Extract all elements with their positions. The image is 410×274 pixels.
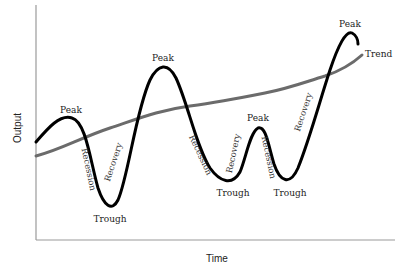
trend-label: Trend: [365, 49, 392, 59]
output-cycle-line: [36, 33, 358, 207]
x-axis-label: Time: [206, 253, 228, 264]
recession-label-3: Recession: [260, 135, 279, 180]
recovery-label-2: Recovery: [224, 133, 242, 174]
peak-label-1: Peak: [60, 105, 82, 115]
trough-label-1: Trough: [93, 214, 126, 224]
peak-label-3: Peak: [247, 113, 269, 123]
peak-label-4: Peak: [339, 19, 361, 29]
recession-label-2: Recession: [187, 133, 215, 177]
business-cycle-diagram: Output Time Peak Peak Peak Peak Trough T…: [0, 0, 410, 274]
recovery-label-1: Recovery: [102, 141, 124, 182]
trough-label-2: Trough: [216, 188, 249, 198]
recession-label-1: Recession: [80, 147, 99, 192]
trough-label-3: Trough: [273, 188, 306, 198]
y-axis-label: Output: [12, 113, 23, 143]
peak-label-2: Peak: [152, 53, 174, 63]
